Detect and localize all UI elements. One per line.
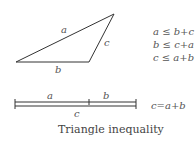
- segment-label-b: b: [103, 91, 109, 101]
- triangle-label-c: c: [104, 38, 110, 48]
- caption: Triangle inequality: [58, 123, 164, 136]
- triangle-label-a: a: [61, 25, 67, 35]
- segment-label-a: a: [47, 91, 53, 101]
- segment-equation: c=a+b: [151, 101, 186, 111]
- triangle: [16, 14, 114, 62]
- diagram-canvas: [0, 0, 196, 143]
- triangle-label-b: b: [55, 65, 61, 75]
- inequality-3: c ≤ a+b: [153, 53, 194, 63]
- inequality-1: a ≤ b+c: [153, 27, 194, 37]
- segment-label-c: c: [74, 109, 80, 119]
- inequality-2: b ≤ c+a: [153, 40, 194, 50]
